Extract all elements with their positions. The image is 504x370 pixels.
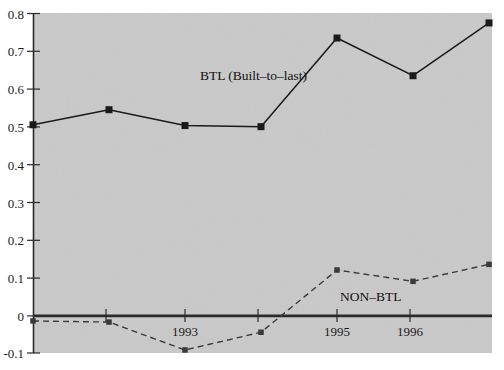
y-tick-label: 0: [18, 309, 25, 324]
data-point-marker: [486, 19, 493, 26]
data-point-marker: [334, 35, 341, 42]
y-tick-label: 0.7: [8, 44, 25, 59]
data-point-marker: [106, 319, 112, 325]
chart-figure: 0.8 0.7 0.6 0.5 0.4 0.3 0.2 0.1 0 -0.1 1…: [0, 0, 504, 370]
data-point-marker: [30, 121, 37, 128]
y-tick-label: 0.8: [8, 7, 24, 22]
x-tick-label-1996: 1996: [397, 324, 424, 339]
y-tick-label: 0.3: [8, 196, 24, 211]
non-btl-series-annotation: NON–BTL: [340, 289, 402, 304]
data-point-marker: [410, 279, 416, 285]
data-point-marker: [30, 318, 36, 324]
data-point-marker: [182, 122, 189, 129]
y-tick-label: 0.5: [8, 120, 24, 135]
y-tick-label: 0.6: [8, 82, 25, 97]
data-point-marker: [486, 262, 492, 268]
y-tick-label: 0.1: [8, 271, 24, 286]
x-tick-label-1995: 1995: [324, 324, 350, 339]
y-tick-label: 0.2: [8, 233, 24, 248]
btl-series-annotation: BTL (Built–to–last): [200, 68, 307, 83]
data-point-marker: [258, 123, 265, 130]
y-tick-label: 0.4: [8, 158, 25, 173]
line-chart: 0.8 0.7 0.6 0.5 0.4 0.3 0.2 0.1 0 -0.1 1…: [0, 0, 504, 370]
data-point-marker: [182, 347, 188, 353]
data-point-marker: [258, 330, 264, 336]
x-tick-label-1993: 1993: [172, 324, 198, 339]
data-point-marker: [106, 106, 113, 113]
paper-grain-texture: [33, 13, 492, 353]
y-tick-label: -0.1: [3, 346, 24, 361]
data-point-marker: [334, 267, 340, 273]
data-point-marker: [410, 72, 417, 79]
